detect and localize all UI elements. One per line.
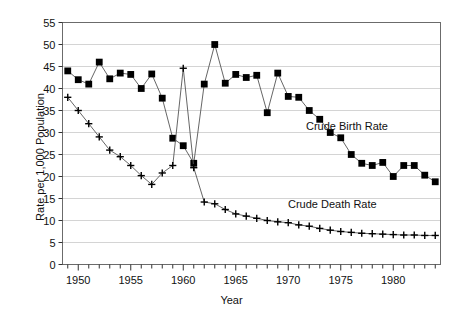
y-tick-label: 50 bbox=[43, 39, 55, 51]
plot-canvas: 0510152025303540455055195019551960196519… bbox=[0, 0, 463, 314]
birth-series-label: Crude Birth Rate bbox=[306, 120, 388, 132]
birth-rate-marker bbox=[201, 81, 208, 88]
birth-rate-marker bbox=[432, 178, 439, 185]
death-rate-marker bbox=[180, 65, 187, 72]
x-tick-label: 1950 bbox=[66, 274, 90, 286]
birth-rate-marker bbox=[358, 160, 365, 167]
birth-rate-marker bbox=[222, 80, 229, 87]
death-rate-line bbox=[68, 68, 436, 235]
death-rate-marker bbox=[411, 231, 418, 238]
death-rate-marker bbox=[337, 228, 344, 235]
birth-rate-marker bbox=[138, 85, 145, 92]
birth-rate-marker bbox=[148, 71, 155, 78]
birth-rate-marker bbox=[390, 173, 397, 180]
birth-rate-marker bbox=[243, 74, 250, 81]
x-tick-label: 1960 bbox=[171, 274, 195, 286]
birth-rate-marker bbox=[106, 75, 113, 82]
birth-rate-marker bbox=[85, 81, 92, 88]
x-tick-label: 1965 bbox=[224, 274, 248, 286]
birth-rate-marker bbox=[159, 95, 166, 102]
y-tick-label: 20 bbox=[43, 171, 55, 183]
plot-frame bbox=[63, 23, 441, 265]
death-rate-marker bbox=[316, 225, 323, 232]
y-tick-label: 15 bbox=[43, 193, 55, 205]
y-tick-label: 30 bbox=[43, 127, 55, 139]
y-tick-label: 35 bbox=[43, 105, 55, 117]
birth-rate-marker bbox=[337, 134, 344, 141]
x-tick-label: 1955 bbox=[119, 274, 143, 286]
birth-rate-marker bbox=[285, 93, 292, 100]
birth-rate-marker bbox=[348, 151, 355, 158]
birth-rate-marker bbox=[274, 70, 281, 77]
death-rate-marker bbox=[243, 213, 250, 220]
death-rate-marker bbox=[400, 231, 407, 238]
birth-rate-marker bbox=[369, 162, 376, 169]
birth-rate-marker bbox=[96, 59, 103, 66]
birth-rate-marker bbox=[232, 71, 239, 78]
x-axis-label: Year bbox=[0, 294, 463, 306]
birth-rate-marker bbox=[64, 68, 71, 75]
x-tick-label: 1970 bbox=[276, 274, 300, 286]
death-rate-marker bbox=[421, 232, 428, 239]
death-rate-marker bbox=[348, 229, 355, 236]
y-tick-label: 55 bbox=[43, 17, 55, 29]
y-tick-label: 25 bbox=[43, 149, 55, 161]
death-rate-marker bbox=[432, 232, 439, 239]
birth-rate-marker bbox=[264, 109, 271, 116]
x-tick-label: 1980 bbox=[381, 274, 405, 286]
birth-rate-marker bbox=[127, 71, 134, 78]
birth-rate-marker bbox=[306, 107, 313, 114]
death-rate-marker bbox=[274, 218, 281, 225]
death-rate-marker bbox=[358, 230, 365, 237]
y-tick-label: 5 bbox=[49, 237, 55, 249]
birth-rate-marker bbox=[295, 94, 302, 101]
death-series-label: Crude Death Rate bbox=[288, 198, 377, 210]
y-tick-label: 10 bbox=[43, 215, 55, 227]
birth-rate-marker bbox=[75, 76, 82, 83]
y-tick-label: 45 bbox=[43, 61, 55, 73]
crude-rates-chart: Rate per 1,000 Population 05101520253035… bbox=[0, 0, 463, 314]
birth-rate-marker bbox=[211, 41, 218, 48]
death-rate-marker bbox=[201, 198, 208, 205]
x-tick-label: 1975 bbox=[329, 274, 353, 286]
birth-rate-marker bbox=[411, 162, 418, 169]
death-rate-marker bbox=[222, 206, 229, 213]
death-rate-marker bbox=[390, 231, 397, 238]
death-rate-marker bbox=[232, 210, 239, 217]
death-rate-marker bbox=[211, 200, 218, 207]
death-rate-marker bbox=[369, 230, 376, 237]
birth-rate-marker bbox=[180, 142, 187, 149]
death-rate-marker bbox=[169, 162, 176, 169]
birth-rate-marker bbox=[379, 159, 386, 166]
birth-rate-marker bbox=[421, 172, 428, 179]
birth-rate-marker bbox=[117, 70, 124, 77]
birth-rate-marker bbox=[400, 162, 407, 169]
death-rate-marker bbox=[306, 223, 313, 230]
death-rate-marker bbox=[295, 221, 302, 228]
y-tick-label: 40 bbox=[43, 83, 55, 95]
death-rate-marker bbox=[264, 217, 271, 224]
y-tick-label: 0 bbox=[49, 259, 55, 271]
birth-rate-marker bbox=[253, 72, 260, 79]
death-rate-marker bbox=[327, 227, 334, 234]
death-rate-marker bbox=[379, 231, 386, 238]
